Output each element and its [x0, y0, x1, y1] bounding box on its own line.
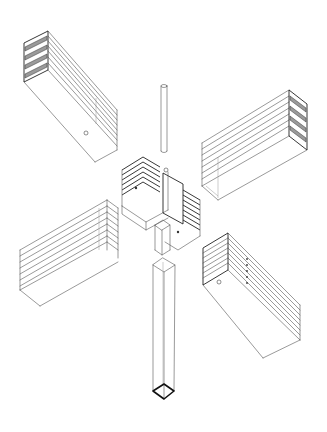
steel-pin [161, 85, 167, 153]
beam-top-right [202, 90, 307, 200]
pin-hole-icon [217, 280, 221, 284]
beam-bottom-right [203, 233, 300, 358]
beam-top-left [24, 31, 117, 162]
beam-bottom-left [20, 200, 118, 306]
column-base-outline [153, 384, 174, 399]
drawing-canvas [0, 0, 327, 432]
connector-node [122, 157, 200, 255]
square-column [153, 258, 175, 399]
pin-hole-icon [84, 131, 88, 135]
exploded-axonometric-drawing [0, 0, 327, 432]
